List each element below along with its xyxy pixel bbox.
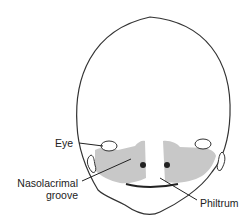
- right-ear: [217, 152, 225, 171]
- right-nostril: [164, 162, 170, 168]
- label-philtrum: Philtrum: [200, 197, 239, 209]
- label-nasolacrimal-groove: Nasolacrimal groove: [6, 177, 78, 201]
- label-nasolacrimal-line2: groove: [6, 189, 78, 201]
- right-eye: [195, 139, 211, 149]
- left-nostril: [140, 162, 146, 168]
- eye-leader: [79, 143, 103, 146]
- label-nasolacrimal-line1: Nasolacrimal: [6, 177, 78, 189]
- left-ear: [87, 155, 95, 173]
- label-eye: Eye: [55, 137, 73, 149]
- head-outline: [77, 17, 230, 214]
- left-eye: [101, 141, 117, 151]
